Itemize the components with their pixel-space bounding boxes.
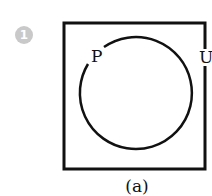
venn-diagram: P U <box>0 0 212 196</box>
universal-set-rectangle <box>64 23 205 169</box>
universal-set-label: U <box>199 47 212 67</box>
set-p-label: P <box>91 46 102 66</box>
diagram-caption: (a) <box>120 176 154 196</box>
